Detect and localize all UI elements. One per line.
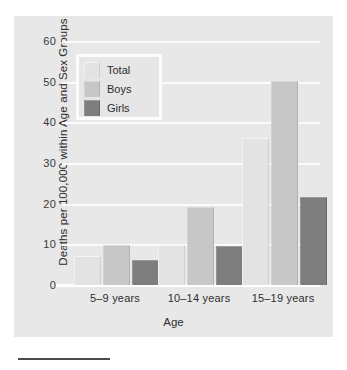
y-axis-ticks: 60 50 40 30 20 10 0	[30, 41, 56, 285]
chart-figure: 60 50 40 30 20 10 0 Deaths per 100,000 w…	[14, 16, 333, 337]
y-tick-label: 20	[43, 198, 56, 210]
legend-swatch-total-icon	[84, 62, 100, 78]
legend-entry-girls: Girls	[84, 100, 130, 116]
caption-rule	[18, 358, 110, 360]
bar-total-group-1	[158, 245, 185, 285]
bar-boys-group-1	[187, 207, 214, 285]
legend-label-boys: Boys	[107, 83, 131, 95]
bar-boys-group-2	[271, 81, 298, 285]
bar-total-group-0	[74, 256, 101, 285]
x-tick-label-0: 5–9 years	[90, 292, 140, 304]
bar-girls-group-0	[132, 260, 159, 285]
bar-boys-group-0	[103, 245, 130, 285]
bar-girls-group-2	[300, 197, 327, 285]
y-tick-label: 40	[43, 116, 56, 128]
y-tick-label: 60	[43, 35, 56, 47]
legend-swatch-girls-icon	[84, 100, 100, 116]
x-tick-label-1: 10–14 years	[168, 292, 231, 304]
legend-label-total: Total	[107, 64, 130, 76]
y-tick-label: 50	[43, 76, 56, 88]
legend-entry-total: Total	[84, 62, 130, 78]
legend-entry-boys: Boys	[84, 81, 131, 97]
chart-legend: Total Boys Girls	[76, 54, 162, 120]
gridline	[62, 41, 320, 43]
x-axis-title: Age	[14, 316, 333, 328]
bar-girls-group-1	[216, 246, 243, 285]
legend-label-girls: Girls	[107, 102, 130, 114]
legend-swatch-boys-icon	[84, 81, 100, 97]
y-tick-label: 30	[43, 157, 56, 169]
x-tick-label-2: 15–19 years	[252, 292, 315, 304]
y-tick-label: 10	[43, 238, 56, 250]
bar-total-group-2	[242, 138, 269, 285]
